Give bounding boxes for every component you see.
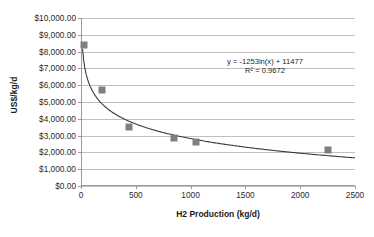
x-axis-tick-label: 500: [129, 190, 143, 200]
x-axis-tick-label: 1500: [236, 190, 254, 200]
trendline-equation-annotation: y = -1253ln(x) + 11477 R² = 0.9672: [205, 57, 325, 76]
y-axis-tickmark: [78, 18, 81, 19]
plot-area: [81, 18, 355, 186]
y-axis-tickmark: [78, 102, 81, 103]
x-axis-tickmark: [300, 186, 301, 189]
y-axis-tickmark: [78, 35, 81, 36]
x-axis-tick-labels: 05001000150020002500: [81, 190, 355, 204]
chart-container: US$/kg/d $0.00$1,000.00$2,000.00$3,000.0…: [0, 0, 374, 237]
x-axis-tick-label: 1000: [181, 190, 199, 200]
y-axis-tick-label: $9,000.00: [12, 30, 76, 40]
x-axis-tickmark: [81, 186, 82, 189]
x-axis-tickmark: [191, 186, 192, 189]
y-axis-tick-label: $8,000.00: [12, 47, 76, 57]
data-point-marker: [126, 124, 133, 131]
x-axis-title: H2 Production (kg/d): [81, 209, 355, 219]
x-axis-tickmark: [136, 186, 137, 189]
data-point-marker: [171, 135, 178, 142]
y-axis-tick-label: $5,000.00: [12, 97, 76, 107]
trendline: [81, 18, 355, 186]
y-axis-tick-label: $1,000.00: [12, 164, 76, 174]
data-point-marker: [99, 87, 106, 94]
y-axis-tick-labels: $0.00$1,000.00$2,000.00$3,000.00$4,000.0…: [12, 18, 76, 186]
gridline: [81, 186, 355, 187]
y-axis-tick-label: $10,000.00: [12, 13, 76, 23]
y-axis-tickmark: [78, 119, 81, 120]
y-axis-tick-label: $3,000.00: [12, 131, 76, 141]
trendline-r-squared-text: R² = 0.9672: [205, 66, 325, 75]
data-point-marker: [81, 41, 88, 48]
y-axis-tickmark: [78, 52, 81, 53]
y-axis-tickmark: [78, 169, 81, 170]
y-axis-tick-label: $6,000.00: [12, 80, 76, 90]
trendline-equation-text: y = -1253ln(x) + 11477: [205, 57, 325, 66]
y-axis-tickmark: [78, 152, 81, 153]
data-point-marker: [324, 146, 331, 153]
x-axis-tickmark: [245, 186, 246, 189]
data-point-marker: [193, 139, 200, 146]
y-axis-tick-label: $2,000.00: [12, 147, 76, 157]
y-axis-tickmark: [78, 68, 81, 69]
y-axis-tick-label: $7,000.00: [12, 63, 76, 73]
y-axis-tickmark: [78, 136, 81, 137]
y-axis-tickmark: [78, 85, 81, 86]
x-axis-tick-label: 0: [79, 190, 84, 200]
y-axis-tick-label: $4,000.00: [12, 114, 76, 124]
x-axis-tickmark: [355, 186, 356, 189]
x-axis-tick-label: 2500: [346, 190, 364, 200]
y-axis-tick-label: $0.00: [12, 181, 76, 191]
x-axis-tick-label: 2000: [291, 190, 309, 200]
